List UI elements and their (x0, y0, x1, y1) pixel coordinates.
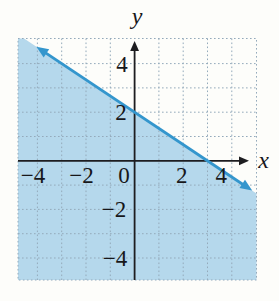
x-tick-label: 0 (118, 163, 130, 188)
shaded-region (18, 39, 257, 281)
x-tick-label: −2 (69, 163, 93, 188)
y-tick-label: 2 (115, 100, 127, 125)
x-tick-label: 4 (216, 163, 228, 188)
x-axis-arrowhead (239, 156, 249, 165)
y-tick-label: −2 (102, 197, 126, 222)
y-axis-arrowhead (130, 41, 139, 51)
inequality-graph-figure: −4−202442−2−4 x y (0, 0, 279, 301)
x-axis-label: x (257, 147, 269, 173)
generated-chart-layers: −4−202442−2−4 (18, 39, 257, 281)
x-tick-label: 2 (176, 163, 188, 188)
y-tick-label: −4 (103, 246, 128, 271)
y-tick-label: 4 (116, 52, 128, 77)
y-axis-label: y (130, 3, 143, 29)
coordinate-plane: −4−202442−2−4 x y (0, 0, 279, 301)
x-tick-label: −4 (21, 163, 46, 188)
